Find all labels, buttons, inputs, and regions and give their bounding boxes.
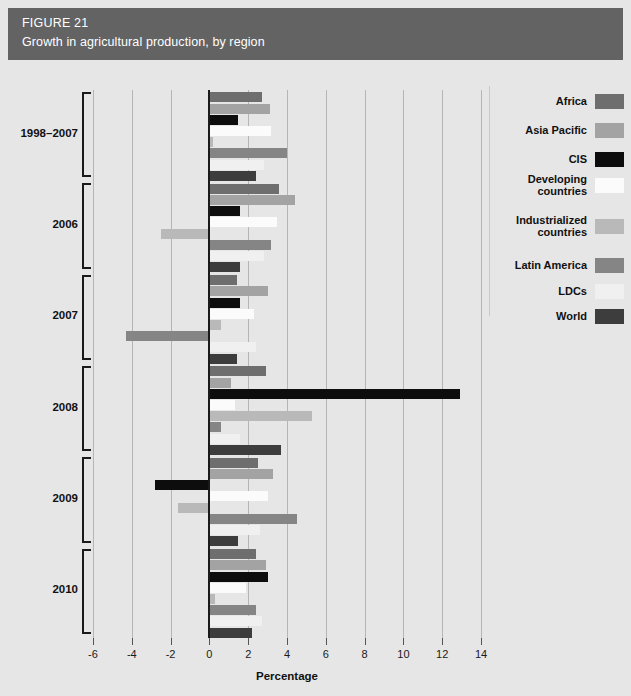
bar — [161, 229, 210, 239]
legend-item[interactable]: Latin America — [490, 254, 624, 276]
gridline — [132, 90, 133, 638]
x-axis-tick-label: 8 — [350, 648, 380, 660]
bar — [209, 514, 296, 524]
bar — [209, 400, 234, 410]
plot-area — [93, 90, 481, 638]
legend-swatch — [595, 309, 624, 324]
bar — [209, 366, 265, 376]
bar — [209, 469, 273, 479]
x-axis-tick-label: 0 — [194, 648, 224, 660]
legend-item-label: Asia Pacific — [525, 124, 587, 137]
bar — [209, 104, 269, 114]
x-axis-tick-label: -6 — [78, 648, 108, 660]
bar — [209, 275, 236, 285]
bar — [209, 126, 271, 136]
x-axis-tick-label: 2 — [233, 648, 263, 660]
bar — [209, 342, 256, 352]
bar — [209, 262, 240, 272]
legend-item-label: Developing countries — [528, 173, 587, 198]
figure-container: FIGURE 21 Growth in agricultural product… — [0, 0, 631, 696]
bar — [209, 309, 254, 319]
x-axis-title: Percentage — [93, 670, 481, 682]
x-axis-tick-label: 6 — [311, 648, 341, 660]
x-axis-tick-label: -2 — [156, 648, 186, 660]
bar — [209, 184, 279, 194]
y-axis-group-bracket — [82, 549, 91, 634]
chart-legend: AfricaAsia PacificCISDeveloping countrie… — [489, 86, 624, 316]
bar — [209, 206, 240, 216]
bar — [209, 217, 277, 227]
legend-item-label: World — [556, 310, 587, 323]
x-axis-tick — [403, 638, 404, 645]
bar — [209, 583, 246, 593]
y-axis-category-label: 2007 — [8, 309, 78, 321]
gridline — [442, 90, 443, 638]
legend-item-label: Africa — [556, 95, 587, 108]
bar — [209, 549, 256, 559]
y-axis-category-label: 2010 — [8, 583, 78, 595]
x-axis-tick-label: 4 — [272, 648, 302, 660]
legend-swatch — [595, 258, 624, 273]
legend-item[interactable]: LDCs — [490, 280, 624, 302]
bar — [209, 286, 267, 296]
zero-axis-line — [208, 90, 210, 638]
legend-item[interactable]: Industrialized countries — [490, 215, 624, 237]
x-axis-tick — [442, 638, 443, 645]
gridline — [403, 90, 404, 638]
gridline — [93, 90, 94, 638]
bar — [209, 115, 238, 125]
bar — [209, 458, 258, 468]
legend-item[interactable]: Asia Pacific — [490, 119, 624, 141]
x-axis-tick-label: -4 — [117, 648, 147, 660]
y-axis-category-label: 2009 — [8, 492, 78, 504]
legend-item[interactable]: Developing countries — [490, 174, 624, 196]
y-axis-group-bracket — [82, 275, 91, 360]
legend-item[interactable]: Africa — [490, 90, 624, 112]
x-axis-tick — [481, 638, 482, 645]
bar — [209, 525, 259, 535]
figure-title: Growth in agricultural production, by re… — [22, 33, 623, 51]
y-axis-category-label: 2008 — [8, 401, 78, 413]
bar — [209, 594, 215, 604]
x-axis-tick — [365, 638, 366, 645]
bar — [178, 503, 209, 513]
gridline — [326, 90, 327, 638]
legend-item[interactable]: World — [490, 305, 624, 327]
legend-swatch — [595, 94, 624, 109]
bar — [209, 378, 230, 388]
bar — [209, 92, 261, 102]
y-axis-category-label: 2006 — [8, 218, 78, 230]
x-axis-tick-label: 12 — [427, 648, 457, 660]
bar — [209, 616, 261, 626]
legend-item-label: CIS — [569, 153, 587, 166]
y-axis-group-bracket — [82, 366, 91, 451]
bar — [209, 605, 256, 615]
y-axis-category-label: 1998–2007 — [8, 127, 78, 139]
legend-swatch — [595, 123, 624, 138]
y-axis-group-bracket — [82, 457, 91, 542]
bar — [209, 389, 459, 399]
legend-item-label: Latin America — [515, 259, 587, 272]
bar — [126, 331, 209, 341]
bar — [209, 628, 252, 638]
bar — [209, 195, 294, 205]
bar — [209, 251, 263, 261]
x-axis-tick — [209, 638, 210, 645]
x-axis-tick-label: 14 — [466, 648, 496, 660]
bar — [209, 240, 271, 250]
bar — [209, 536, 238, 546]
x-axis-tick — [132, 638, 133, 645]
bar — [209, 148, 287, 158]
bar — [209, 491, 267, 501]
bar — [209, 171, 256, 181]
x-axis-tick-label: 10 — [388, 648, 418, 660]
gridline — [365, 90, 366, 638]
x-axis-tick — [248, 638, 249, 645]
x-axis-tick — [171, 638, 172, 645]
bar — [155, 480, 209, 490]
legend-item-label: Industrialized countries — [516, 214, 587, 239]
legend-swatch — [595, 284, 624, 299]
bar — [209, 298, 240, 308]
figure-number: FIGURE 21 — [22, 15, 623, 32]
legend-item[interactable]: CIS — [490, 148, 624, 170]
